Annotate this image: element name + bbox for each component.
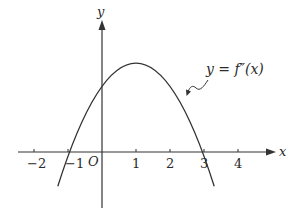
tick-label-1: 1: [132, 156, 140, 171]
tick-label-neg2: −2: [27, 156, 46, 171]
tick-label-4: 4: [234, 156, 242, 171]
annotation-arrow: [188, 80, 208, 92]
chart-canvas: −2 −1 O 1 2 3 4 x y y = f″(x): [0, 0, 294, 216]
x-axis-label: x: [279, 144, 287, 159]
x-axis-arrow-icon: [266, 149, 276, 156]
y-axis-label: y: [96, 4, 105, 19]
tick-label-3: 3: [200, 156, 208, 171]
y-axis-arrow-icon: [99, 20, 106, 30]
curve-label: y = f″(x): [205, 61, 264, 77]
origin-label: O: [88, 154, 99, 169]
tick-label-neg1: −1: [65, 156, 84, 171]
tick-label-2: 2: [166, 156, 174, 171]
